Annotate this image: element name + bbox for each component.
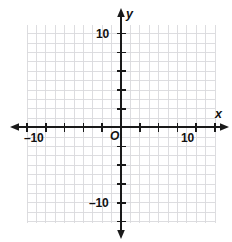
y-axis-tick-label-10: 10 [96,28,109,40]
x-axis-tick-label-10: 10 [181,132,194,144]
plot-background [0,0,232,242]
x-axis-tick-label-neg10: –10 [24,132,43,144]
y-axis-label: y [126,8,133,21]
origin-label: O [110,130,119,142]
coordinate-plane [0,0,232,242]
x-axis-label: x [215,108,222,121]
y-axis-tick-label-neg10: –10 [89,197,108,209]
